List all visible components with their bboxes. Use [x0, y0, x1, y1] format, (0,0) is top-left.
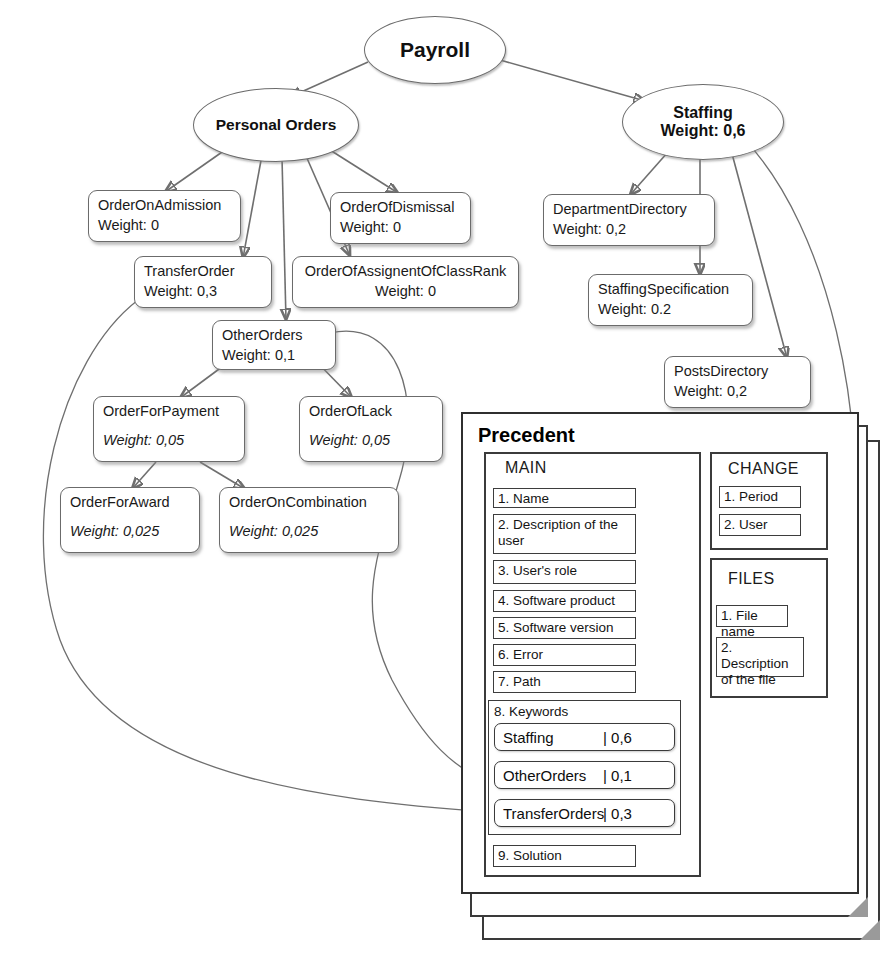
node-staffing-specification-weight: Weight: 0.2: [598, 300, 743, 320]
node-transfer-order-label: TransferOrder: [144, 262, 262, 282]
node-other-orders-weight: Weight: 0,1: [222, 346, 326, 366]
node-order-for-award[interactable]: OrderForAward Weight: 0,025: [60, 487, 200, 553]
keyword-transfer-orders-name: TransferOrders: [503, 805, 604, 822]
node-staffing[interactable]: Staffing Weight: 0,6: [622, 84, 784, 160]
keyword-transfer-orders-value: | 0,3: [603, 805, 632, 822]
node-posts-directory-label: PostsDirectory: [674, 362, 801, 382]
edge-transfer-keyword: [43, 300, 490, 812]
change-field-user[interactable]: 2. User: [719, 514, 801, 536]
node-order-for-award-label: OrderForAward: [70, 493, 190, 513]
main-panel-title: MAIN: [505, 459, 547, 477]
page-fold-icon: [848, 897, 868, 917]
node-staffing-label: Staffing: [673, 104, 733, 122]
edge-staffing-postsdir: [731, 150, 787, 358]
main-field-error[interactable]: 6. Error: [493, 644, 636, 666]
files-field-file-name-label: 1. File name: [721, 608, 758, 639]
edge-personal-other: [282, 158, 286, 320]
node-staffing-specification-label: StaffingSpecification: [598, 280, 743, 300]
node-order-of-dismissal-weight: Weight: 0: [340, 218, 461, 238]
change-panel-title: CHANGE: [728, 460, 799, 478]
node-order-of-assignent-of-class-rank[interactable]: OrderOfAssignentOfClassRank Weight: 0: [292, 256, 519, 308]
edge-payment-award: [132, 462, 156, 489]
change-field-user-label: 2. User: [724, 517, 768, 532]
precedent-title-label: Precedent: [478, 424, 575, 446]
node-department-directory-label: DepartmentDirectory: [553, 200, 705, 220]
keyword-staffing-name: Staffing: [503, 729, 554, 746]
files-panel-title: FILES: [728, 570, 774, 588]
main-field-path[interactable]: 7. Path: [493, 671, 636, 693]
node-payroll[interactable]: Payroll: [364, 16, 506, 84]
edge-personal-admission: [165, 150, 225, 192]
edge-payroll-staffing: [500, 60, 645, 101]
main-field-error-label: 6. Error: [498, 647, 543, 662]
main-field-description-of-user[interactable]: 2. Description of the user: [493, 514, 636, 554]
keywords-label: 8. Keywords: [494, 704, 568, 719]
keywords-label-text: 8. Keywords: [494, 704, 568, 719]
node-department-directory-weight: Weight: 0,2: [553, 220, 705, 240]
node-posts-directory-weight: Weight: 0,2: [674, 382, 801, 402]
node-other-orders-label: OtherOrders: [222, 326, 326, 346]
node-order-on-combination-label: OrderOnCombination: [229, 493, 389, 513]
main-field-users-role[interactable]: 3. User's role: [493, 560, 636, 584]
main-panel-title-label: MAIN: [505, 459, 547, 476]
node-staffing-specification[interactable]: StaffingSpecification Weight: 0.2: [588, 274, 753, 326]
keyword-other-orders-value: | 0,1: [603, 767, 632, 784]
node-order-for-payment-label: OrderForPayment: [103, 402, 235, 422]
node-transfer-order-weight: Weight: 0,3: [144, 282, 262, 302]
main-field-software-version[interactable]: 5. Software version: [493, 617, 636, 639]
edge-staffing-deptdir: [630, 152, 668, 195]
node-order-on-admission-weight: Weight: 0: [98, 216, 231, 236]
node-order-on-admission-label: OrderOnAdmission: [98, 196, 231, 216]
node-order-for-award-weight: Weight: 0,025: [70, 522, 190, 542]
node-order-of-dismissal-label: OrderOfDismissal: [340, 198, 461, 218]
keyword-other-orders-name: OtherOrders: [503, 767, 586, 784]
node-personal-orders[interactable]: Personal Orders: [193, 88, 359, 162]
node-department-directory[interactable]: DepartmentDirectory Weight: 0,2: [543, 194, 715, 246]
edge-personal-dismissal: [330, 150, 398, 193]
node-order-of-dismissal[interactable]: OrderOfDismissal Weight: 0: [330, 192, 471, 244]
main-field-name-label: 1. Name: [498, 491, 549, 506]
node-other-orders[interactable]: OtherOrders Weight: 0,1: [212, 320, 336, 370]
node-order-on-admission[interactable]: OrderOnAdmission Weight: 0: [88, 190, 241, 242]
keyword-transfer-orders[interactable]: TransferOrders | 0,3: [494, 799, 675, 827]
node-order-on-combination-weight: Weight: 0,025: [229, 522, 389, 542]
node-order-for-payment-weight: Weight: 0,05: [103, 431, 235, 451]
files-field-description-of-file[interactable]: 2. Description of the file: [716, 637, 804, 677]
node-posts-directory[interactable]: PostsDirectory Weight: 0,2: [664, 356, 811, 408]
change-panel-title-label: CHANGE: [728, 460, 799, 477]
node-order-of-lack[interactable]: OrderOfLack Weight: 0,05: [299, 396, 443, 462]
node-order-for-payment[interactable]: OrderForPayment Weight: 0,05: [93, 396, 245, 462]
change-field-period-label: 1. Period: [724, 489, 778, 504]
page-fold-icon: [860, 920, 880, 940]
main-field-solution[interactable]: 9. Solution: [493, 845, 636, 867]
files-field-file-name[interactable]: 1. File name: [716, 605, 788, 627]
change-field-period[interactable]: 1. Period: [719, 486, 801, 508]
node-transfer-order[interactable]: TransferOrder Weight: 0,3: [134, 256, 272, 308]
edge-personal-transfer: [243, 155, 262, 258]
files-panel-title-label: FILES: [728, 570, 774, 587]
node-order-of-assignent-of-class-rank-weight: Weight: 0: [302, 282, 509, 302]
node-order-of-lack-weight: Weight: 0,05: [309, 431, 433, 451]
keyword-staffing[interactable]: Staffing | 0,6: [494, 723, 675, 751]
node-personal-orders-label: Personal Orders: [216, 116, 337, 134]
keyword-staffing-value: | 0,6: [603, 729, 632, 746]
main-field-name[interactable]: 1. Name: [493, 488, 636, 508]
main-field-path-label: 7. Path: [498, 674, 541, 689]
main-field-users-role-label: 3. User's role: [498, 563, 577, 578]
node-staffing-weight: Weight: 0,6: [660, 122, 745, 140]
main-field-software-product-label: 4. Software product: [498, 593, 615, 608]
main-field-software-version-label: 5. Software version: [498, 620, 614, 635]
keyword-other-orders[interactable]: OtherOrders | 0,1: [494, 761, 675, 789]
node-order-on-combination[interactable]: OrderOnCombination Weight: 0,025: [219, 487, 399, 553]
node-order-of-lack-label: OrderOfLack: [309, 402, 433, 422]
main-field-description-of-user-label: 2. Description of the user: [498, 517, 618, 548]
main-field-software-product[interactable]: 4. Software product: [493, 590, 636, 612]
node-order-of-assignent-of-class-rank-label: OrderOfAssignentOfClassRank: [302, 262, 509, 282]
node-payroll-label: Payroll: [400, 38, 470, 62]
precedent-title: Precedent: [478, 424, 575, 447]
diagram-canvas: Payroll Personal Orders Staffing Weight:…: [0, 0, 890, 968]
main-field-solution-label: 9. Solution: [498, 848, 562, 863]
edge-payment-combination: [200, 462, 245, 489]
